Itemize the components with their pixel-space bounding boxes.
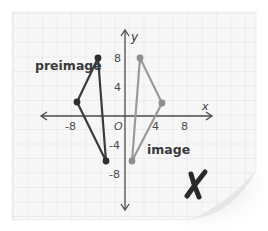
y-tick-label-neg4: -4 bbox=[109, 139, 120, 152]
origin-label: O bbox=[114, 120, 123, 133]
y-tick-label-neg8: -8 bbox=[109, 168, 120, 181]
y-tick-label-4: 4 bbox=[114, 81, 121, 94]
y-axis-label: y bbox=[130, 30, 139, 44]
image-vertex bbox=[159, 100, 166, 107]
image-vertex bbox=[137, 55, 144, 62]
x-axis-label: x bbox=[201, 100, 209, 113]
x-tick-label-neg8: -8 bbox=[65, 120, 76, 133]
preimage-vertex bbox=[74, 99, 81, 106]
image-vertex bbox=[129, 158, 136, 165]
x-tick-label-8: 8 bbox=[181, 120, 188, 133]
image-label: image bbox=[147, 142, 190, 157]
graph-svg: y x O -8 4 8 8 4 -4 -8 preimage image bbox=[0, 0, 268, 231]
preimage-vertex bbox=[103, 158, 110, 165]
preimage-label: preimage bbox=[35, 58, 102, 73]
y-tick-label-8: 8 bbox=[114, 52, 121, 65]
graph-paper-figure: y x O -8 4 8 8 4 -4 -8 preimage image bbox=[0, 0, 268, 231]
